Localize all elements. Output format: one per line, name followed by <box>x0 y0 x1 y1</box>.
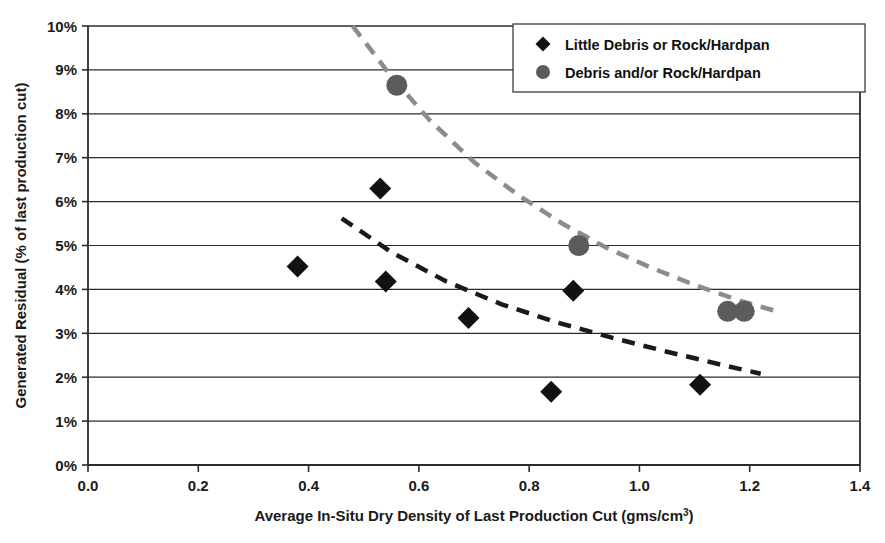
y-tick-label: 0% <box>55 457 77 474</box>
x-axis-title: Average In-Situ Dry Density of Last Prod… <box>254 507 693 524</box>
trendline-series-0 <box>342 218 761 373</box>
y-tick-label: 5% <box>55 237 77 254</box>
legend: Little Debris or Rock/HardpanDebris and/… <box>513 24 865 92</box>
data-point-diamond <box>369 177 391 199</box>
y-tick-label: 1% <box>55 413 77 430</box>
y-tick-label: 7% <box>55 149 77 166</box>
x-tick-label: 0.0 <box>78 477 99 494</box>
scatter-chart: 0%1%2%3%4%5%6%7%8%9%10%0.00.20.40.60.81.… <box>0 0 885 543</box>
data-point-diamond <box>457 307 479 329</box>
chart-canvas: 0%1%2%3%4%5%6%7%8%9%10%0.00.20.40.60.81.… <box>0 0 885 543</box>
data-point-diamond <box>287 256 309 278</box>
x-axis-ticks: 0.00.20.40.60.81.01.21.4 <box>78 465 872 494</box>
y-tick-label: 2% <box>55 369 77 386</box>
y-axis-ticks: 0%1%2%3%4%5%6%7%8%9%10% <box>47 18 88 474</box>
x-axis-title-suffix: ) <box>689 507 694 524</box>
y-tick-label: 4% <box>55 281 77 298</box>
x-tick-label: 0.8 <box>519 477 540 494</box>
y-tick-label: 10% <box>47 18 77 35</box>
y-tick-label: 6% <box>55 193 77 210</box>
legend-marker-circle <box>536 65 550 79</box>
data-point-circle <box>734 301 755 322</box>
legend-box <box>513 24 865 92</box>
x-tick-label: 1.2 <box>739 477 760 494</box>
data-point-diamond <box>540 381 562 403</box>
x-tick-label: 1.4 <box>850 477 872 494</box>
x-tick-label: 0.4 <box>298 477 320 494</box>
y-tick-label: 8% <box>55 105 77 122</box>
y-tick-label: 3% <box>55 325 77 342</box>
data-point-circle <box>386 75 407 96</box>
y-axis-title: Generated Residual (% of last production… <box>12 83 29 409</box>
legend-label: Little Debris or Rock/Hardpan <box>565 37 770 53</box>
data-point-circle <box>568 235 589 256</box>
x-tick-label: 0.2 <box>188 477 209 494</box>
y-tick-label: 9% <box>55 61 77 78</box>
x-tick-label: 0.6 <box>408 477 429 494</box>
x-tick-label: 1.0 <box>629 477 650 494</box>
legend-label: Debris and/or Rock/Hardpan <box>565 65 761 81</box>
data-point-diamond <box>562 280 584 302</box>
series-0-markers <box>287 177 712 402</box>
